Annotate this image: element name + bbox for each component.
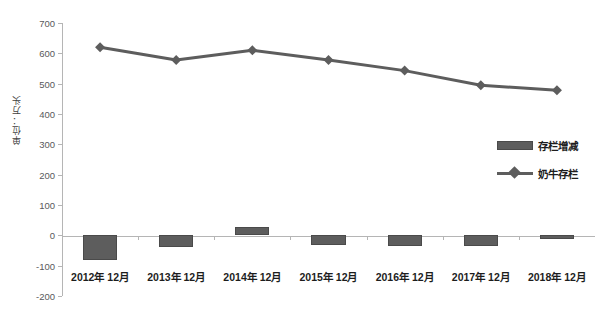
y-axis-tick-label: 300 <box>39 139 55 150</box>
x-axis-tick-label: 2016年 12月 <box>376 269 434 284</box>
line-data-point-marker <box>400 66 410 76</box>
line-data-point-marker <box>552 85 562 95</box>
y-axis-tick-label: 100 <box>39 200 55 211</box>
y-axis-tick-mark <box>58 296 62 297</box>
chart-legend: 存栏增减 奶牛存栏 <box>497 131 597 187</box>
x-axis-tick-label: 2018年 12月 <box>528 269 586 284</box>
chart-container: 单位：万头 7006005004003002001000-100-200 201… <box>0 0 609 312</box>
y-axis-tick-label: 200 <box>39 169 55 180</box>
bar-swatch-icon <box>497 141 533 150</box>
line-data-point-marker <box>171 55 181 65</box>
y-axis-title: 单位：万头 <box>4 0 28 240</box>
legend-item-label: 奶牛存栏 <box>538 166 578 181</box>
x-axis-tick-label: 2015年 12月 <box>300 269 358 284</box>
y-axis-tick-label: 0 <box>50 230 55 241</box>
y-axis-tick-label: 700 <box>39 18 55 29</box>
line-diamond-icon <box>497 168 533 178</box>
y-axis-tick-label: -100 <box>36 260 55 271</box>
x-axis-tick-label: 2013年 12月 <box>147 269 205 284</box>
x-axis-tick-label: 2012年 12月 <box>71 269 129 284</box>
line-data-point-marker <box>476 80 486 90</box>
legend-item-bar[interactable]: 存栏增减 <box>497 131 597 159</box>
line-data-point-marker <box>324 55 334 65</box>
line-series-path <box>100 47 557 90</box>
y-axis-title-text: 单位：万头 <box>12 95 21 145</box>
x-axis-tick-label: 2017年 12月 <box>452 269 510 284</box>
y-axis-tick-label: 600 <box>39 48 55 59</box>
y-axis-tick-label: -200 <box>36 291 55 302</box>
legend-item-line[interactable]: 奶牛存栏 <box>497 159 597 187</box>
line-data-point-marker <box>247 45 257 55</box>
x-axis-tick-label: 2014年 12月 <box>223 269 281 284</box>
y-axis-tick-label: 400 <box>39 109 55 120</box>
y-axis-tick-label: 500 <box>39 78 55 89</box>
line-data-point-marker <box>95 42 105 52</box>
legend-item-label: 存栏增减 <box>538 138 578 153</box>
